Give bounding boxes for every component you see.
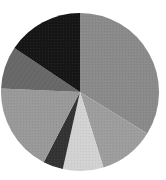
pie-slices xyxy=(1,13,159,171)
pie-chart xyxy=(0,0,166,180)
pie-chart-svg xyxy=(0,0,166,180)
